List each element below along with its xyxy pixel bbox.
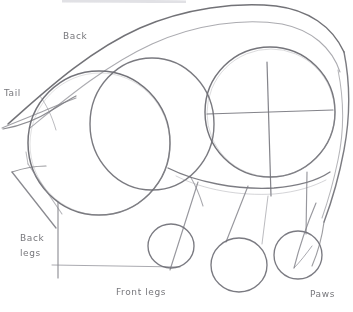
head-crosshair-vertical: [267, 62, 271, 196]
label-back-legs: Back legs: [20, 231, 60, 261]
belly-contour-group: [168, 168, 330, 194]
mid-body-circle: [90, 58, 214, 190]
sketch-page: Back Tail Back legs Front legs Paws: [0, 0, 353, 312]
pencil-sketch-canvas: [0, 0, 353, 312]
head-crosshair-horizontal: [207, 110, 333, 114]
head-circle-group: [205, 47, 335, 196]
label-tail: Tail: [4, 86, 21, 101]
haunch-top-edge: [12, 166, 46, 172]
back-leg-wedge-group: [12, 152, 62, 228]
top-edge-smudge: [62, 1, 186, 2]
front-leg-line-a: [170, 182, 198, 270]
label-paws: Paws: [310, 287, 335, 302]
haunch-diagonal-inner: [28, 164, 62, 214]
hip-circle-group: [28, 71, 170, 215]
paw-circle-2: [211, 238, 267, 292]
haunch-short-riser: [26, 152, 28, 164]
front-leg-line-d: [262, 196, 268, 244]
chest-outer-arc: [324, 52, 349, 222]
haunch-diagonal-outer: [12, 172, 56, 228]
belly-line: [168, 168, 330, 188]
back-contour-group: [8, 5, 344, 128]
front-leg-line-b: [226, 186, 248, 242]
paw-circle-1: [148, 224, 194, 268]
label-back: Back: [63, 29, 87, 44]
belly-line-faint: [176, 176, 326, 194]
chest-contour-group: [312, 52, 349, 266]
label-front-legs: Front legs: [116, 285, 166, 300]
tail-group: [2, 96, 76, 130]
